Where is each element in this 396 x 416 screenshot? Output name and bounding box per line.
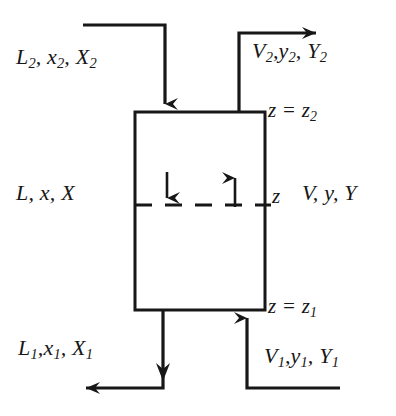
label-liquid-mid: L, x, X xyxy=(16,182,75,204)
label-z-mid: z xyxy=(272,186,280,207)
label-z-bottom-text: z = z1 xyxy=(268,294,317,318)
label-vapor-outlet-top: V2,y2, Y2 xyxy=(252,40,327,65)
mass-transfer-column-diagram: L2, x2, X2 V2,y2, Y2 z = z2 L, x, X z V,… xyxy=(0,0,396,416)
label-liquid-inlet-top-text: L2, x2, X2 xyxy=(16,44,97,69)
label-vapor-outlet-top-text: V2,y2, Y2 xyxy=(252,38,327,63)
liquid-outlet-bottom-arrow xyxy=(86,310,163,388)
column-body xyxy=(135,112,265,310)
label-liquid-inlet-top: L2, x2, X2 xyxy=(16,46,97,71)
label-vapor-mid: V, y, Y xyxy=(302,182,357,204)
label-z-bottom: z = z1 xyxy=(268,296,317,320)
label-liquid-outlet-bottom-text: L1,x1, X1 xyxy=(18,335,93,360)
label-vapor-inlet-bottom: V1,y1, Y1 xyxy=(264,345,339,370)
label-liquid-outlet-bottom: L1,x1, X1 xyxy=(18,337,93,362)
label-vapor-inlet-bottom-text: V1,y1, Y1 xyxy=(264,343,339,368)
label-z-top-text: z = z2 xyxy=(268,98,317,122)
label-z-top: z = z2 xyxy=(268,100,317,124)
